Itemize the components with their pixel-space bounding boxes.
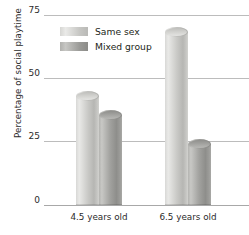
bar-foot [165,204,188,205]
bar-6-5-mixed-group [188,139,211,205]
gridline-50: 50 [44,78,249,79]
x-tick-label-6-5-years: 6.5 years old [159,212,216,222]
y-tick-label-75: 75 [29,5,40,15]
gridline-75: 75 [44,15,249,16]
bar-body [76,96,99,205]
bar-body [99,115,122,205]
bar-foot [99,204,122,205]
bar-cap-inner [166,28,187,36]
bar-foot [188,204,211,205]
legend-label-mixed-group: Mixed group [95,41,152,52]
legend-item-mixed-group: Mixed group [60,39,152,54]
bar-top-cap [165,27,188,37]
legend-swatch-same-sex-icon [60,27,88,36]
legend-swatch-mixed-group-icon [60,42,88,51]
y-tick-label-25: 25 [29,131,40,141]
legend-label-same-sex: Same sex [95,26,140,37]
gridline-25: 25 [44,141,249,142]
y-tick-label-0: 0 [34,195,40,205]
bar-cap-inner [189,140,210,148]
bar-chart: Percentage of social playtime 75 50 25 0 [0,0,249,235]
legend-item-same-sex: Same sex [60,24,152,39]
y-tick-label-50: 50 [29,68,40,78]
bar-body [188,144,211,205]
bar-top-cap [99,110,122,120]
bar-cap-inner [100,111,121,119]
bar-foot [76,204,99,205]
bar-4-5-mixed-group [99,110,122,205]
legend: Same sex Mixed group [60,24,152,54]
bar-top-cap [188,139,211,149]
bar-cap-inner [77,92,98,100]
x-tick-label-4-5-years: 4.5 years old [70,212,127,222]
bar-6-5-same-sex [165,27,188,205]
bar-top-cap [76,91,99,101]
gridline-0-baseline: 0 [44,205,249,206]
bar-body [165,32,188,205]
bar-4-5-same-sex [76,91,99,205]
y-axis-title: Percentage of social playtime [13,0,23,153]
